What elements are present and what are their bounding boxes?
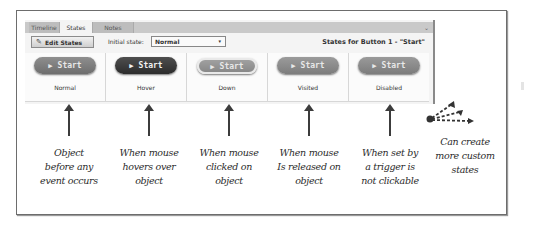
caption-down: When mouse clicked on object	[189, 146, 269, 188]
play-icon: ▶	[372, 62, 376, 70]
caption-line: object	[269, 174, 349, 188]
caption-line: When mouse	[109, 146, 189, 160]
play-icon: ▶	[291, 62, 295, 70]
caption-line: Object	[29, 146, 109, 160]
caption-visited: When mouse Is released on object	[269, 146, 349, 188]
state-name: Visited	[268, 84, 348, 91]
state-name: Normal	[25, 84, 105, 91]
start-button-down[interactable]: ▶Start	[197, 58, 257, 74]
start-button-normal[interactable]: ▶Start	[34, 57, 96, 74]
state-name: Hover	[106, 84, 186, 91]
states-toolbar: ✎ Edit States Initial state: Normal ▾ St…	[25, 34, 433, 51]
arrow-up-icon	[148, 108, 150, 136]
caption-line: When mouse	[189, 146, 269, 160]
caption-line: clicked on	[189, 160, 269, 174]
caption-custom-states: Can create more custom states	[432, 135, 498, 177]
arrow-up-icon	[228, 108, 230, 136]
chevron-down-icon[interactable]: ⌄	[424, 22, 429, 33]
arrow-up-icon	[308, 108, 310, 136]
arrow-up-icon	[389, 108, 391, 136]
caption-disabled: When set by a trigger is not clickable	[350, 146, 430, 188]
play-icon: ▶	[210, 63, 214, 71]
initial-state-select[interactable]: Normal ▾	[151, 36, 226, 47]
arrow-up-icon	[68, 108, 70, 136]
caption-line: Can create	[432, 135, 498, 149]
caption-line: states	[432, 163, 498, 177]
start-label: Start	[58, 61, 82, 70]
start-label: Start	[382, 61, 406, 70]
state-name: Down	[187, 84, 267, 91]
start-button-visited[interactable]: ▶Start	[277, 57, 339, 74]
start-label: Start	[139, 61, 163, 70]
tab-bar: Timeline States Notes ⌄	[25, 22, 433, 33]
start-button-hover[interactable]: ▶Start	[115, 57, 177, 74]
caption-line: before any	[29, 160, 109, 174]
state-cell-visited[interactable]: ▶Start Visited	[268, 53, 349, 102]
states-title: States for Button 1 - "Start"	[322, 37, 425, 47]
state-cell-down[interactable]: ▶Start Down	[187, 53, 268, 102]
page-edge-mark	[521, 82, 524, 90]
caption-line: When mouse	[269, 146, 349, 160]
state-cell-hover[interactable]: ▶Start Hover	[106, 53, 187, 102]
play-icon: ▶	[129, 62, 133, 70]
state-cell-normal[interactable]: ▶Start Normal	[25, 53, 106, 102]
caption-line: When set by	[350, 146, 430, 160]
states-list: ▶Start Normal ▶Start Hover ▶Start Down ▶…	[25, 53, 433, 103]
start-label: Start	[301, 61, 325, 70]
start-button-disabled[interactable]: ▶Start	[358, 57, 420, 74]
caption-line: event occurs	[29, 174, 109, 188]
initial-state-value: Normal	[155, 38, 179, 45]
caption-hover: When mouse hovers over object	[109, 146, 189, 188]
caption-line: object	[189, 174, 269, 188]
tab-notes[interactable]: Notes	[93, 22, 134, 33]
tab-timeline[interactable]: Timeline	[29, 22, 60, 33]
dashed-arrows-icon	[424, 99, 484, 129]
caption-line: a trigger is	[350, 160, 430, 174]
initial-state-label: Initial state:	[108, 37, 144, 47]
edit-states-label: Edit States	[45, 39, 82, 46]
tab-states[interactable]: States	[60, 22, 93, 33]
states-panel: Timeline States Notes ⌄ ✎ Edit States In…	[25, 20, 435, 104]
state-cell-disabled[interactable]: ▶Start Disabled	[349, 53, 429, 102]
edit-states-button[interactable]: ✎ Edit States	[31, 36, 94, 48]
caption-line: hovers over	[109, 160, 189, 174]
caption-line: Is released on	[269, 160, 349, 174]
state-name: Disabled	[349, 84, 429, 91]
start-label: Start	[220, 62, 244, 71]
caption-line: more custom	[432, 149, 498, 163]
caption-line: object	[109, 174, 189, 188]
caption-line: not clickable	[350, 174, 430, 188]
dropdown-caret-icon: ▾	[218, 37, 221, 46]
pencil-icon: ✎	[36, 38, 42, 47]
caption-normal: Object before any event occurs	[29, 146, 109, 188]
play-icon: ▶	[48, 62, 52, 70]
